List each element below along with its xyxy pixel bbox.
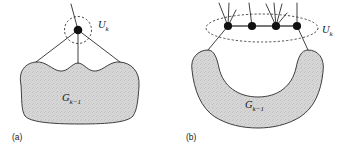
vertex-b-3 bbox=[272, 22, 280, 30]
region-blob-a bbox=[20, 62, 139, 124]
panel-a: Uk Gk−1 (a) bbox=[12, 4, 139, 142]
panel-caption-b: (b) bbox=[186, 132, 197, 142]
figure-container: Uk Gk−1 (a) bbox=[0, 0, 344, 147]
edge-a-left bbox=[36, 30, 78, 62]
uk-label-b: Uk bbox=[322, 24, 334, 38]
edge-a-right bbox=[78, 30, 120, 62]
vertex-b-1 bbox=[224, 22, 232, 30]
uk-dashed-ellipse-b bbox=[206, 14, 318, 42]
panel-caption-a: (a) bbox=[12, 132, 23, 142]
edge-b-left-side bbox=[208, 26, 228, 50]
vertex-a-1 bbox=[74, 26, 83, 35]
diagram-svg: Uk Gk−1 (a) bbox=[0, 0, 344, 147]
uk-label-a: Uk bbox=[98, 19, 110, 33]
vertex-b-4 bbox=[293, 22, 301, 30]
panel-b: Uk Gk−1 (b) bbox=[186, 3, 334, 142]
vertex-b-2 bbox=[248, 22, 256, 30]
region-blob-b bbox=[192, 50, 324, 128]
